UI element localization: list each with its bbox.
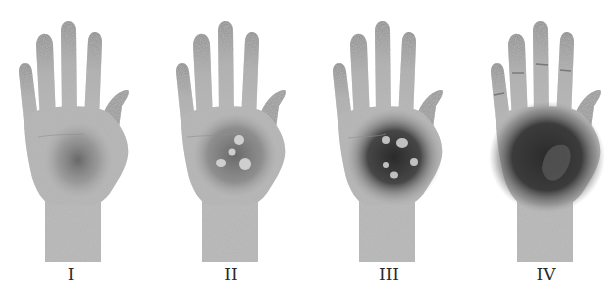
- hand-illustration-stage-3: [314, 0, 464, 270]
- hand-panel-stage-4: IV: [472, 0, 614, 299]
- lesion-stage-1: [44, 122, 112, 198]
- hand-illustration-stage-2: [157, 0, 307, 270]
- hand-panel-stage-2: II: [157, 0, 307, 299]
- lesion-stage-3: [346, 109, 442, 205]
- stage-label: II: [201, 264, 261, 284]
- stage-label: III: [359, 264, 419, 284]
- stage-label: I: [41, 264, 101, 284]
- hand-panel-stage-1: I: [0, 0, 150, 299]
- hand-illustration-stage-4: [472, 0, 614, 270]
- stage-label: IV: [516, 264, 576, 284]
- lesion-stage-2: [193, 113, 277, 197]
- hand-illustration-stage-1: [0, 0, 150, 270]
- hand-panel-stage-3: III: [314, 0, 464, 299]
- hand-stages-figure: I II: [0, 0, 614, 299]
